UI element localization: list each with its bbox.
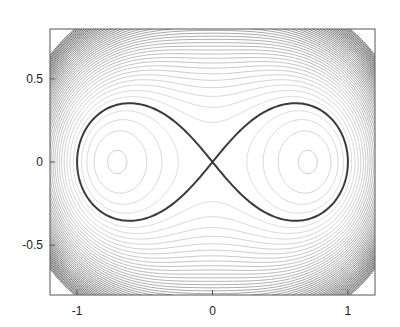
x-tick-label: 1 bbox=[345, 304, 352, 318]
x-tick-label: -1 bbox=[72, 304, 83, 318]
y-tick-label: 0.5 bbox=[26, 72, 43, 86]
y-tick-label: -0.5 bbox=[22, 238, 43, 252]
x-tick-label: 0 bbox=[209, 304, 216, 318]
chart: -101 -0.500.5 bbox=[0, 0, 400, 327]
y-tick-label: 0 bbox=[36, 155, 43, 169]
lemniscate-curve bbox=[77, 103, 348, 221]
